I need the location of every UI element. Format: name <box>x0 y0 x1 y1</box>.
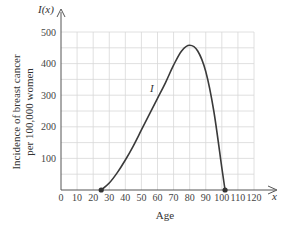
x-tick-label: 40 <box>120 192 130 203</box>
curve-label: I <box>149 82 155 94</box>
x-tick-label: 120 <box>247 192 262 203</box>
axes <box>57 9 277 194</box>
x-tick-label: 0 <box>59 192 64 203</box>
incidence-curve <box>101 45 225 190</box>
y-tick-label: 200 <box>41 121 56 132</box>
x-tick-label: 20 <box>88 192 98 203</box>
y-tick-label: 100 <box>41 153 56 164</box>
chart: 0102030405060708090100110120 10020030040… <box>0 0 289 230</box>
y-axis-symbol: I(x) <box>37 3 54 16</box>
endpoint-dot <box>99 187 104 192</box>
x-tick-label: 100 <box>214 192 229 203</box>
x-tick-labels: 0102030405060708090100110120 <box>59 192 262 203</box>
y-tick-label: 400 <box>41 58 56 69</box>
x-tick-label: 110 <box>231 192 246 203</box>
x-tick-label: 70 <box>169 192 179 203</box>
x-tick-label: 90 <box>201 192 211 203</box>
x-tick-label: 60 <box>153 192 163 203</box>
x-tick-label: 50 <box>136 192 146 203</box>
endpoint-dot <box>222 187 227 192</box>
x-tick-label: 10 <box>72 192 82 203</box>
y-tick-label: 500 <box>41 27 56 38</box>
grid <box>61 32 254 190</box>
x-axis-label: Age <box>156 209 174 221</box>
y-axis-label-line1: Incidence of breast cancer <box>10 54 22 169</box>
x-tick-label: 30 <box>104 192 114 203</box>
x-tick-label: 80 <box>185 192 195 203</box>
y-tick-labels: 100200300400500 <box>41 27 56 164</box>
y-axis-label-line2: per 100,000 women <box>23 68 35 156</box>
y-tick-label: 300 <box>41 90 56 101</box>
x-axis-symbol: x <box>271 190 277 202</box>
